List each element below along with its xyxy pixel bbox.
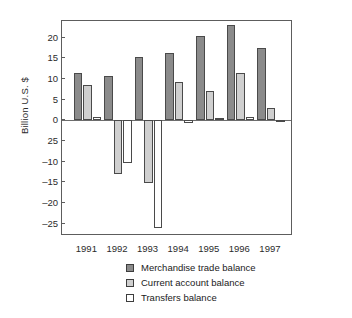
legend-label: Merchandise trade balance (141, 263, 256, 273)
bar-1992-series-2 (123, 120, 132, 163)
y-tick-label: 25 (0, 134, 64, 145)
bar-1993-series-2 (154, 120, 163, 228)
bar-1997-series-0 (257, 48, 266, 120)
legend-swatch-icon (126, 264, 134, 272)
bar-1992-series-0 (104, 76, 113, 121)
bar-1991-series-2 (93, 117, 102, 120)
bar-1993-series-1 (144, 120, 153, 183)
y-tick-label: –15 (0, 176, 64, 187)
y-tick-mark (61, 202, 65, 203)
bar-1991-series-1 (83, 85, 92, 120)
bar-1996-series-0 (227, 25, 236, 120)
bar-1997-series-2 (276, 120, 285, 122)
y-axis-title: Billion U.S. $ (19, 46, 30, 166)
y-tick-label: –20 (0, 196, 64, 207)
x-tick-label-1997: 1997 (259, 243, 280, 254)
bar-1991-series-0 (74, 73, 83, 121)
legend-item-1: Current account balance (126, 275, 256, 290)
bar-1996-series-2 (246, 117, 255, 121)
bar-1992-series-1 (114, 120, 123, 174)
y-tick-label: –10 (0, 155, 64, 166)
legend-item-2: Transfers balance (126, 290, 256, 305)
y-tick-mark (61, 119, 65, 120)
y-tick-mark (61, 161, 65, 162)
zero-line (62, 120, 291, 121)
bar-1995-series-2 (215, 118, 224, 120)
bar-1995-series-0 (196, 36, 205, 120)
y-tick-mark (61, 57, 65, 58)
chart-legend: Merchandise trade balanceCurrent account… (126, 260, 256, 305)
y-tick-label: 15 (0, 52, 64, 63)
y-tick-label: –25 (0, 217, 64, 228)
y-tick-mark (61, 181, 65, 182)
legend-swatch-icon (126, 294, 134, 302)
x-tick-label-1993: 1993 (137, 243, 158, 254)
bar-1994-series-2 (184, 120, 193, 122)
bar-1993-series-0 (135, 57, 144, 121)
bar-1995-series-1 (206, 91, 215, 120)
bar-1994-series-0 (165, 53, 174, 120)
plot-area (61, 20, 292, 235)
y-tick-label: 20 (0, 31, 64, 42)
legend-swatch-icon (126, 279, 134, 287)
y-tick-label: 0 (0, 114, 64, 125)
x-tick-label-1991: 1991 (76, 243, 97, 254)
x-tick-label-1994: 1994 (168, 243, 189, 254)
y-tick-mark (61, 78, 65, 79)
legend-label: Transfers balance (141, 293, 217, 303)
x-tick-label-1996: 1996 (229, 243, 250, 254)
y-tick-label: 10 (0, 72, 64, 83)
chart-figure: Billion U.S. $ 2015105025–10–15–20–25 19… (0, 0, 352, 318)
bar-1997-series-1 (267, 108, 276, 120)
y-tick-mark (61, 223, 65, 224)
bar-1996-series-1 (236, 73, 245, 121)
y-tick-label: 5 (0, 93, 64, 104)
bar-1994-series-1 (175, 82, 184, 120)
legend-label: Current account balance (141, 278, 245, 288)
x-tick-label-1995: 1995 (198, 243, 219, 254)
x-tick-label-1992: 1992 (106, 243, 127, 254)
y-tick-mark (61, 99, 65, 100)
legend-item-0: Merchandise trade balance (126, 260, 256, 275)
y-tick-mark (61, 140, 65, 141)
y-tick-mark (61, 37, 65, 38)
